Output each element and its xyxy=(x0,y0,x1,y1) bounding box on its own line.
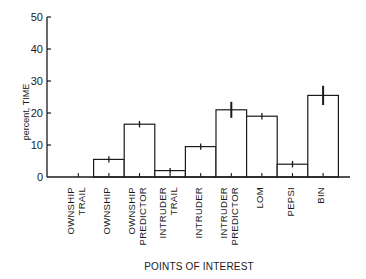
x-tick-label-line: OWNSHIP xyxy=(101,187,112,235)
x-tick-label-line: LOM xyxy=(254,187,265,209)
x-tick-label: INTRUDERTRAIL xyxy=(157,187,179,238)
x-tick-label-line: BIN xyxy=(315,187,326,204)
x-tick-label: OWNSHIPTRAIL xyxy=(65,187,87,235)
y-tick-label: 10 xyxy=(31,139,43,151)
x-tick-label-line: OWNSHIP xyxy=(126,187,137,235)
bars xyxy=(94,86,339,177)
y-tick-label: 30 xyxy=(31,75,43,87)
y-tick-label: 40 xyxy=(31,43,43,55)
x-tick-label-line: PEPSI xyxy=(285,187,296,217)
bar-ownship-predictor xyxy=(124,121,155,177)
x-tick-label: OWNSHIPPREDICTOR xyxy=(126,187,148,245)
x-tick-label-line: INTRUDER xyxy=(193,187,204,238)
bar-intruder xyxy=(185,143,216,177)
x-axis-label: POINTS OF INTEREST xyxy=(144,261,254,272)
x-tick-label-line: PREDICTOR xyxy=(229,187,240,245)
y-tick-label: 50 xyxy=(31,11,43,23)
x-tick-label: INTRUDER xyxy=(193,187,204,238)
x-axis: OWNSHIPTRAILOWNSHIPOWNSHIPPREDICTORINTRU… xyxy=(47,173,350,245)
y-tick-label: 20 xyxy=(31,107,43,119)
x-tick-label: BIN xyxy=(315,187,326,204)
bar-bin xyxy=(308,86,339,177)
y-tick-label: 0 xyxy=(37,171,43,183)
x-tick-label: LOM xyxy=(254,187,265,209)
bar-intruder-predictor xyxy=(216,102,247,177)
x-tick-label-line: OWNSHIP xyxy=(65,187,76,235)
x-tick-label-line: INTRUDER xyxy=(157,187,168,238)
x-tick-label: PEPSI xyxy=(285,187,296,217)
y-axis: 01020304050 xyxy=(31,11,51,183)
y-axis-label: percent, TIME xyxy=(21,84,31,140)
x-tick-label-line: PREDICTOR xyxy=(137,187,148,245)
x-tick-label-line: TRAIL xyxy=(168,187,179,215)
bar-chart: 01020304050 OWNSHIPTRAILOWNSHIPOWNSHIPPR… xyxy=(0,0,366,279)
x-tick-label-line: INTRUDER xyxy=(218,187,229,238)
x-tick-label: INTRUDERPREDICTOR xyxy=(218,187,240,245)
x-tick-label: OWNSHIP xyxy=(101,187,112,235)
bar-lom xyxy=(247,113,278,177)
x-tick-label-line: TRAIL xyxy=(76,187,87,215)
